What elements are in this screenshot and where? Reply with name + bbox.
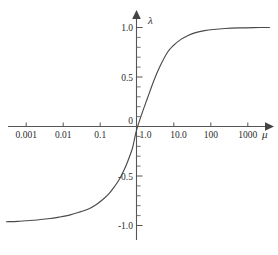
x-tick-label-6: 1000: [238, 130, 257, 140]
x-tick-label-5: 100: [204, 130, 219, 140]
x-tick-label-2: 0.1: [94, 130, 106, 140]
x-tick-label-0: 0.001: [16, 130, 38, 140]
y-tick-label-origin: 0: [128, 116, 133, 126]
y-axis-arrowhead: [132, 10, 141, 19]
x-tick-label-4: 10.0: [170, 130, 187, 140]
plot-canvas: 0.001 0.01 0.1 1.0 10.0 100 1000 1.0 0.5…: [0, 0, 278, 255]
y-tick-label-4: -1.0: [118, 221, 133, 231]
x-tick-label-1: 0.01: [55, 130, 72, 140]
y-axis-label-lambda: λ: [147, 14, 153, 26]
y-tick-label-1: 0.5: [121, 73, 133, 83]
chart-figure: 0.001 0.01 0.1 1.0 10.0 100 1000 1.0 0.5…: [0, 0, 278, 255]
x-tick-label-3: 1.0: [140, 130, 152, 140]
sigmoid-curve: [7, 28, 270, 222]
y-tick-label-0: 1.0: [121, 23, 133, 33]
x-axis-label-mu: μ: [261, 128, 268, 140]
y-tick-label-3: -0.5: [118, 172, 133, 182]
